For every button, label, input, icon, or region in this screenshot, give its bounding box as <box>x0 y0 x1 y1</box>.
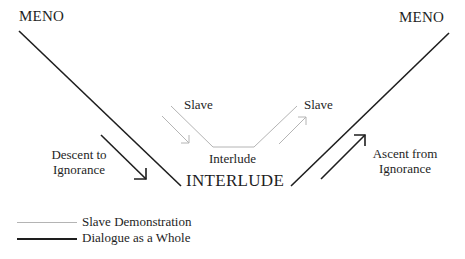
descent-label: Descent to Ignorance <box>46 148 112 178</box>
descent-label-line1: Descent to <box>46 148 112 163</box>
legend-item-slave-demonstration: Slave Demonstration <box>17 214 191 230</box>
meno-end-label: MENO <box>399 9 444 26</box>
ascent-arrow-icon <box>321 135 365 179</box>
meno-start-label: MENO <box>19 8 64 25</box>
interlude-small-label: Interlude <box>209 152 256 167</box>
slave-ascent-arrow-icon <box>279 117 306 144</box>
legend-item-dialogue-whole: Dialogue as a Whole <box>17 230 190 246</box>
slave-start-label: Slave <box>184 98 213 113</box>
legend-label: Slave Demonstration <box>82 214 191 230</box>
slave-end-label: Slave <box>304 98 333 113</box>
descent-label-line2: Ignorance <box>46 163 112 178</box>
ascent-label-line2: Ignorance <box>368 162 442 177</box>
legend-swatch-thick-black <box>17 238 77 240</box>
ascent-label: Ascent from Ignorance <box>368 147 442 177</box>
legend-swatch-thin-gray <box>17 222 77 223</box>
interlude-big-label: INTERLUDE <box>186 171 284 191</box>
legend-label: Dialogue as a Whole <box>82 230 190 246</box>
ascent-label-line1: Ascent from <box>368 147 442 162</box>
